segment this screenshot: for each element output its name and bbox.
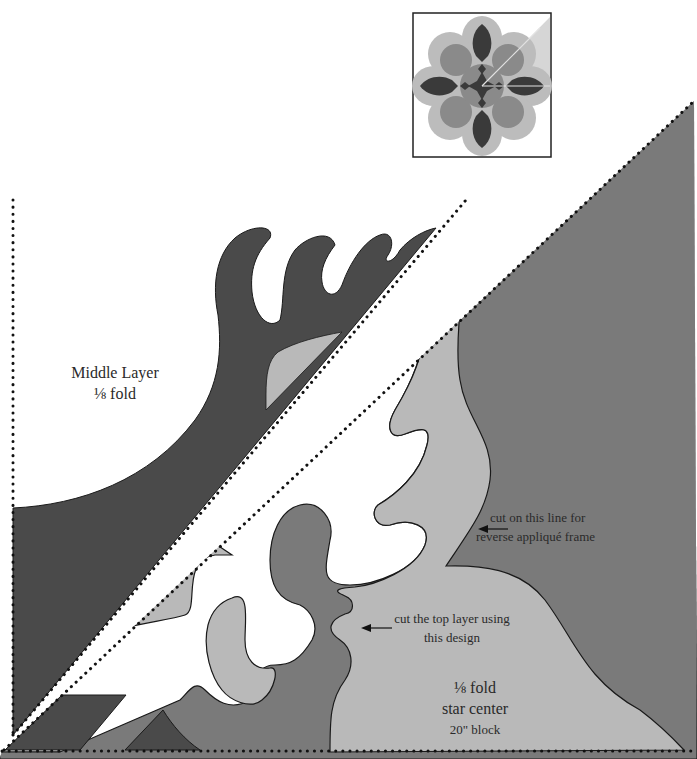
cut-frame-line1: cut on this line for bbox=[476, 508, 697, 527]
cut-frame-label: cut on this line for reverse appliqué fr… bbox=[476, 508, 697, 546]
cut-top-line1: cut the top layer using bbox=[382, 609, 522, 628]
fold-center-title: star center bbox=[410, 698, 540, 719]
cut-top-line2: this design bbox=[382, 628, 522, 647]
cut-top-label: cut the top layer using this design bbox=[382, 609, 522, 647]
fold-center-label: ⅛ fold star center 20" block bbox=[410, 677, 540, 740]
star-block-thumbnail bbox=[412, 13, 552, 157]
fold-center-size: 20" block bbox=[410, 719, 540, 740]
middle-layer-label: Middle Layer ⅛ fold bbox=[30, 362, 200, 404]
middle-layer-title: Middle Layer bbox=[30, 362, 200, 383]
fold-center-fold: ⅛ fold bbox=[410, 677, 540, 698]
cut-frame-line2: reverse appliqué frame bbox=[476, 527, 697, 546]
star-center-light-hole bbox=[206, 597, 275, 704]
middle-layer-fold: ⅛ fold bbox=[30, 383, 200, 404]
